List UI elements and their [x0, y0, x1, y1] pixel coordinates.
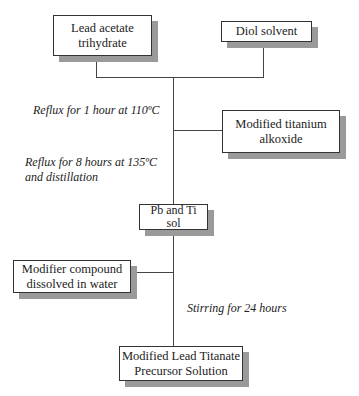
node-label-line: alkoxide [259, 132, 302, 147]
node-label-line: Modifier compound [22, 262, 122, 277]
step-label-line: Reflux for 8 hours at 135ºC [25, 155, 157, 170]
connector-main-trunk-lower [173, 230, 174, 347]
connector-lead-acetate-stem [96, 56, 97, 78]
step-label-line: and distillation [25, 170, 157, 185]
node-label-line: Precursor Solution [134, 364, 227, 379]
step-stirring-24-hours: Stirring for 24 hours [187, 301, 287, 316]
node-modifier-compound: Modifier compound dissolved in water [13, 260, 131, 293]
node-diol-solvent: Diol solvent [221, 21, 312, 42]
node-label-line: Modified titanium [235, 117, 326, 132]
connector-titanium-branch [173, 130, 223, 131]
node-pb-ti-sol: Pb and Ti sol [139, 204, 208, 230]
node-lead-acetate-trihydrate: Lead acetate trihydrate [53, 15, 152, 56]
connector-modifier-branch [131, 272, 174, 273]
step-reflux-1-hour: Reflux for 1 hour at 110ºC [33, 103, 160, 118]
node-label-line: Diol solvent [236, 24, 297, 39]
connector-main-trunk-upper [173, 77, 174, 205]
node-label-line: sol [166, 217, 180, 230]
node-label-line: trihydrate [78, 36, 127, 51]
step-label-line: Stirring for 24 hours [187, 301, 287, 316]
connector-top-join [96, 77, 264, 78]
node-label-line: Modified Lead Titanate [122, 349, 240, 364]
node-precursor-solution: Modified Lead Titanate Precursor Solutio… [119, 346, 243, 381]
node-modified-titanium-alkoxide: Modified titanium alkoxide [222, 110, 340, 153]
node-label-line: dissolved in water [27, 277, 118, 292]
step-label-line: Reflux for 1 hour at 110ºC [33, 103, 160, 118]
node-label-line: Lead acetate [71, 21, 134, 36]
connector-diol-stem [263, 42, 264, 78]
step-reflux-8-hours: Reflux for 8 hours at 135ºC and distilla… [25, 155, 157, 185]
